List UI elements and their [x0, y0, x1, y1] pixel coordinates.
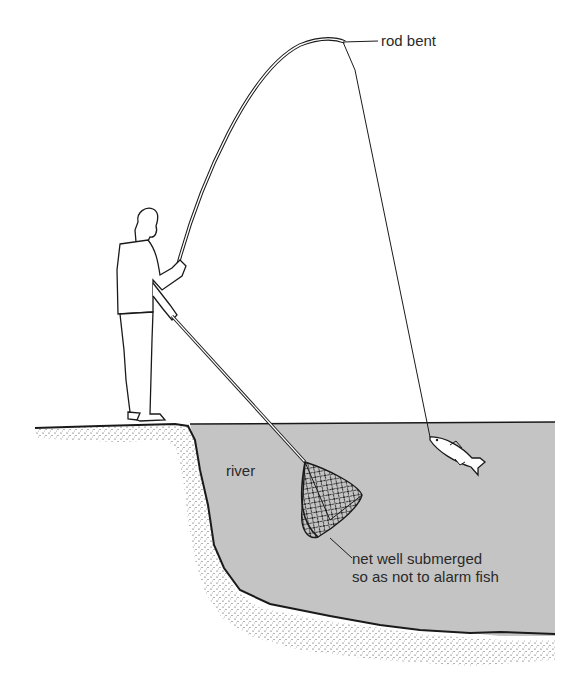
fishing-line — [343, 42, 430, 437]
label-net-line2: so as not to alarm fish — [352, 568, 499, 585]
angler — [117, 208, 186, 421]
fishing-diagram: rod bent river net well submerged so as … — [0, 0, 587, 688]
river-water — [35, 422, 555, 636]
label-river: river — [226, 462, 255, 479]
fishing-rod — [176, 39, 378, 272]
label-net-line1: net well submerged — [352, 550, 482, 567]
label-rod-bent: rod bent — [381, 32, 437, 49]
